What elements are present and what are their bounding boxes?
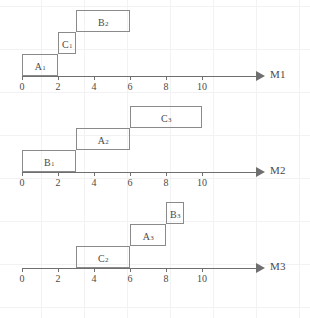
tick-label: 0 — [12, 273, 32, 284]
tick-label: 10 — [192, 81, 212, 92]
tick-mark — [202, 268, 203, 272]
machine-timeline-m2: M20246810B1A2C3 — [0, 102, 310, 198]
operation-box-c2: C2 — [76, 246, 130, 268]
tick-label: 6 — [120, 177, 140, 188]
tick-label: 4 — [84, 81, 104, 92]
operation-label: B1 — [23, 151, 75, 173]
operation-subscript: 2 — [105, 139, 109, 146]
operation-name: C — [98, 253, 105, 264]
axis-arrow-icon — [256, 167, 265, 177]
operation-name: B — [98, 17, 105, 28]
operation-name: A — [143, 231, 150, 242]
operation-box-a1: A1 — [22, 54, 58, 76]
operation-name: B — [170, 209, 177, 220]
operation-subscript: 3 — [168, 117, 172, 124]
operation-label: A3 — [131, 225, 165, 247]
tick-label: 10 — [192, 177, 212, 188]
tick-label: 6 — [120, 81, 140, 92]
operation-box-b3: B3 — [166, 202, 184, 224]
tick-label: 10 — [192, 273, 212, 284]
tick-mark — [130, 76, 131, 80]
operation-subscript: 1 — [69, 43, 73, 50]
axis-arrow-icon — [256, 71, 265, 81]
tick-label: 6 — [120, 273, 140, 284]
operation-box-b1: B1 — [22, 150, 76, 172]
operation-name: C — [62, 39, 69, 50]
tick-label: 8 — [156, 177, 176, 188]
tick-mark — [58, 268, 59, 272]
tick-label: 8 — [156, 81, 176, 92]
operation-subscript: 2 — [105, 21, 109, 28]
axis-arrow-icon — [256, 263, 265, 273]
tick-mark — [94, 172, 95, 176]
tick-label: 2 — [48, 273, 68, 284]
tick-mark — [94, 76, 95, 80]
machine-timeline-m3: M30246810C2A3B3 — [0, 198, 310, 294]
operation-subscript: 3 — [150, 235, 154, 242]
tick-label: 0 — [12, 177, 32, 188]
operation-label: A1 — [23, 55, 57, 77]
operation-label: A2 — [77, 129, 129, 151]
operation-subscript: 3 — [177, 213, 181, 220]
axis-label-m2: M2 — [270, 164, 286, 176]
tick-mark — [202, 76, 203, 80]
operation-box-a3: A3 — [130, 224, 166, 246]
tick-label: 0 — [12, 81, 32, 92]
operation-box-c1: C1 — [58, 32, 76, 54]
operation-name: A — [98, 135, 105, 146]
axis-label-m3: M3 — [270, 260, 286, 272]
operation-label: C2 — [77, 247, 129, 269]
tick-mark — [166, 76, 167, 80]
gantt-schedule-diagram: M10246810A1C1B2M20246810B1A2C3M30246810C… — [0, 0, 310, 318]
operation-label: C1 — [59, 33, 75, 55]
operation-name: C — [161, 113, 168, 124]
operation-name: B — [44, 157, 51, 168]
tick-mark — [22, 268, 23, 272]
machine-timeline-m1: M10246810A1C1B2 — [0, 6, 310, 102]
tick-label: 2 — [48, 177, 68, 188]
operation-box-a2: A2 — [76, 128, 130, 150]
tick-mark — [166, 172, 167, 176]
tick-label: 4 — [84, 177, 104, 188]
operation-label: C3 — [131, 107, 201, 129]
tick-mark — [130, 172, 131, 176]
operation-subscript: 1 — [51, 161, 55, 168]
tick-label: 8 — [156, 273, 176, 284]
operation-box-b2: B2 — [76, 10, 130, 32]
operation-label: B2 — [77, 11, 129, 33]
tick-mark — [58, 76, 59, 80]
tick-label: 2 — [48, 81, 68, 92]
tick-mark — [202, 172, 203, 176]
operation-box-c3: C3 — [130, 106, 202, 128]
operation-name: A — [35, 61, 42, 72]
tick-mark — [130, 268, 131, 272]
operation-label: B3 — [167, 203, 183, 225]
tick-label: 4 — [84, 273, 104, 284]
tick-mark — [166, 268, 167, 272]
operation-subscript: 1 — [42, 65, 46, 72]
operation-subscript: 2 — [105, 257, 109, 264]
axis-label-m1: M1 — [270, 68, 286, 80]
